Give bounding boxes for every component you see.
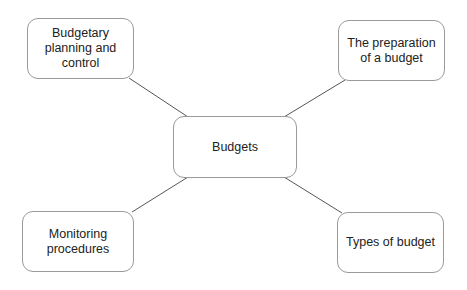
connector-center-to-bottom-left bbox=[132, 177, 188, 212]
node-label: Budgetary planning and control bbox=[32, 26, 129, 71]
node-label: The preparation of a budget bbox=[347, 36, 435, 66]
node-budgets-center: Budgets bbox=[173, 116, 297, 178]
connector-center-to-top-left bbox=[129, 78, 188, 117]
node-label: Monitoring procedures bbox=[47, 227, 110, 257]
connector-center-to-top-right bbox=[284, 80, 345, 117]
connector-center-to-bottom-right bbox=[284, 177, 342, 213]
node-preparation-of-a-budget: The preparation of a budget bbox=[338, 20, 445, 81]
node-types-of-budget: Types of budget bbox=[337, 212, 444, 273]
node-monitoring-procedures: Monitoring procedures bbox=[22, 211, 134, 272]
node-label: Types of budget bbox=[346, 235, 435, 250]
node-label: Budgets bbox=[212, 140, 258, 155]
node-budgetary-planning-and-control: Budgetary planning and control bbox=[27, 18, 134, 79]
